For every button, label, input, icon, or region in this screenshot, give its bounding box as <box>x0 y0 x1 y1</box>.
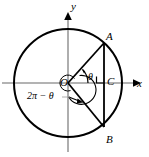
segment-ob <box>68 83 104 127</box>
point-c-label: C <box>107 76 114 87</box>
origin-label: O <box>60 77 68 88</box>
y-axis-label: y <box>71 1 76 12</box>
theta-label: θ <box>88 72 93 82</box>
x-axis-label: x <box>137 78 142 89</box>
diagram-canvas <box>0 0 149 157</box>
right-angle-marker <box>97 77 105 84</box>
geometry-figure: x y O A B C θ 2π − θ <box>0 0 149 157</box>
point-b-label: B <box>106 134 113 145</box>
point-a-label: A <box>106 31 113 42</box>
reflex-angle-label: 2π − θ <box>27 91 54 101</box>
